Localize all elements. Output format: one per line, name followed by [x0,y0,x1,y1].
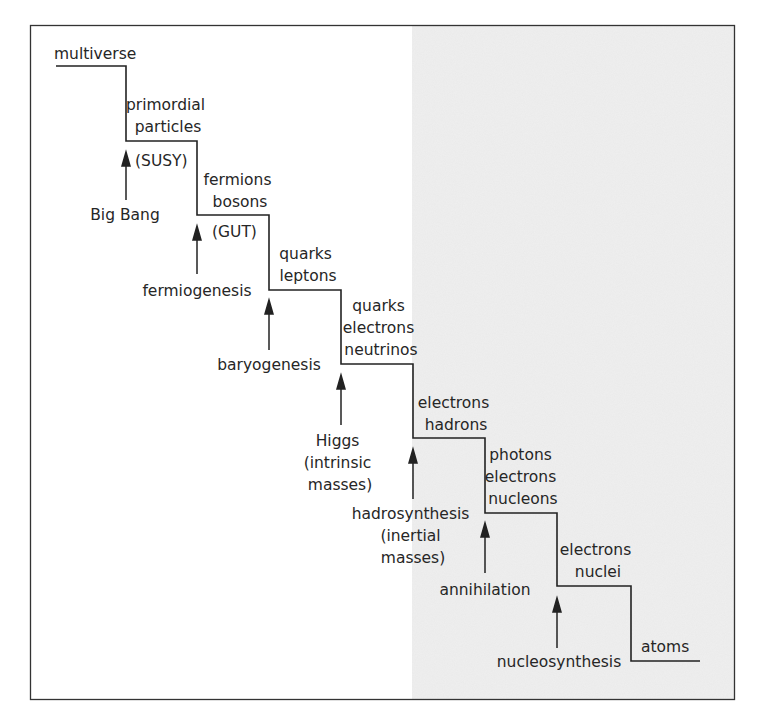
tag-gut: (GUT) [212,223,257,241]
step-label-quarks-electrons-neutrinos: quarks electrons neutrinos [343,297,419,359]
step-label-primordial-particles: primordial particles [126,96,210,136]
transition-label-annihilation: annihilation [439,581,530,599]
step-label-fermions-bosons: fermions bosons [204,171,277,211]
transition-label-big-bang: Big Bang [90,206,160,224]
step-label-multiverse: multiverse [54,45,136,63]
transition-label-baryogenesis: baryogenesis [217,356,321,374]
tag-susy: (SUSY) [135,152,188,170]
cosmic-evolution-staircase-diagram: multiverse primordial particles fermions… [0,0,762,727]
arrow-up-icon [193,226,201,274]
step-label-quarks-leptons: quarks leptons [279,245,337,285]
step-label-photons-electrons-nucleons: photons electrons nucleons [485,446,561,508]
transition-label-fermiogenesis: fermiogenesis [142,282,251,300]
transition-label-nucleosynthesis: nucleosynthesis [497,653,621,671]
step-label-atoms: atoms [641,638,689,656]
arrow-up-icon [122,152,130,200]
arrow-up-icon [337,375,345,425]
arrow-up-icon [265,300,273,350]
transition-label-higgs: Higgs (intrinsic masses) [304,432,377,494]
